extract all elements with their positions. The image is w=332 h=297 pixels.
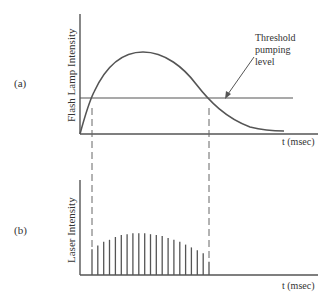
laser-pumping-diagram: (a) Flash Lamp Intensity t (msec) Thresh… (0, 0, 332, 297)
annotation-line1: Threshold (255, 32, 296, 43)
panel-a-xlabel: t (msec) (282, 136, 315, 148)
panel-a: (a) Flash Lamp Intensity t (msec) Thresh… (14, 14, 318, 148)
panel-a-ylabel: Flash Lamp Intensity (65, 28, 77, 122)
panel-b-xlabel: t (msec) (282, 280, 315, 292)
annotation-arrow-shaft (228, 57, 254, 94)
panel-b: (b) Laser Intensity t (msec) (14, 180, 318, 292)
panel-a-tag: (a) (14, 77, 27, 90)
flash-lamp-curve (80, 52, 284, 134)
panel-b-tag: (b) (14, 224, 27, 237)
annotation-line3: level (255, 56, 275, 67)
panel-b-ylabel: Laser Intensity (65, 197, 77, 263)
laser-spikes (92, 233, 209, 275)
annotation-line2: pumping (255, 44, 291, 55)
